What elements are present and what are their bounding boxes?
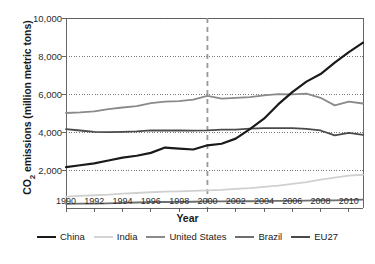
x-axis-tick-label: 1992 (84, 196, 104, 206)
legend-label: India (117, 231, 138, 242)
series-line-china (66, 43, 363, 167)
x-axis-title: Year (0, 212, 375, 224)
x-axis-tick-label: 2002 (226, 196, 246, 206)
page-body-text-fragment (6, 250, 371, 262)
x-axis-tick-labels: 1990199219941996199820002002200420062008… (0, 196, 375, 212)
legend-item-united-states[interactable]: United States (146, 231, 226, 242)
legend-swatch-icon (94, 236, 113, 238)
legend-swatch-icon (235, 236, 254, 238)
chart-figure: CO2 emissions (million metric tons) 2,00… (0, 0, 375, 264)
legend-item-eu27[interactable]: EU27 (291, 231, 338, 242)
legend-item-india[interactable]: India (94, 231, 138, 242)
legend-swatch-icon (146, 236, 165, 238)
series-line-india (66, 175, 363, 197)
legend-swatch-icon (37, 236, 56, 238)
legend-item-china[interactable]: China (37, 231, 85, 242)
legend-swatch-icon (291, 236, 310, 238)
x-axis-tick-label: 2010 (339, 196, 359, 206)
x-axis-tick-label: 1996 (141, 196, 161, 206)
legend-label: Brazil (258, 231, 282, 242)
plot-area (0, 0, 375, 264)
x-axis-tick-label: 2004 (254, 196, 274, 206)
legend-label: EU27 (314, 231, 338, 242)
legend-label: China (60, 231, 85, 242)
legend-item-brazil[interactable]: Brazil (235, 231, 282, 242)
x-axis-tick-label: 1994 (113, 196, 133, 206)
x-axis-tick-label: 2008 (311, 196, 331, 206)
x-axis-tick-label: 1990 (56, 196, 76, 206)
chart-legend: ChinaIndiaUnited StatesBrazilEU27 (0, 231, 375, 242)
x-axis-tick-label: 2000 (197, 196, 217, 206)
series-line-united-states (66, 94, 363, 113)
legend-label: United States (169, 231, 226, 242)
x-axis-tick-label: 1998 (169, 196, 189, 206)
x-axis-tick-label: 2006 (282, 196, 302, 206)
